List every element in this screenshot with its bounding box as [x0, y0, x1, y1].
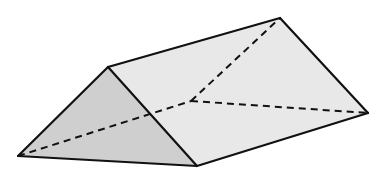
triangular-prism-diagram [0, 0, 381, 171]
